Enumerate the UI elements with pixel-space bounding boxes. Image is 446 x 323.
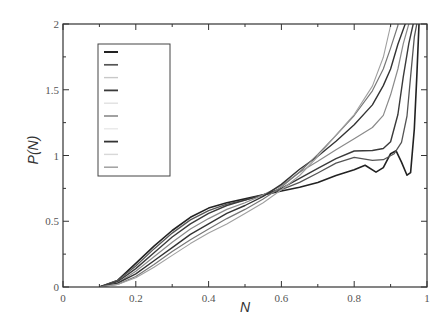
y-tick-label: 1 <box>54 150 60 162</box>
y-tick-label: 2 <box>54 18 60 30</box>
y-tick-label: 0 <box>54 281 60 293</box>
legend-box <box>98 44 170 176</box>
y-tick-label: 1.5 <box>45 84 59 96</box>
x-tick-label: 0.4 <box>202 292 216 304</box>
x-axis-title: N <box>240 299 251 315</box>
x-tick-label: 0.8 <box>347 292 361 304</box>
x-tick-label: 0.6 <box>275 292 289 304</box>
y-tick-label: 0.5 <box>45 215 59 227</box>
x-tick-label: 0.2 <box>129 292 143 304</box>
y-axis-title: P(N) <box>25 136 41 165</box>
legend <box>98 44 170 176</box>
x-tick-label: 0 <box>60 292 66 304</box>
x-tick-label: 1 <box>424 292 430 304</box>
line-chart: 00.20.40.60.8100.511.52 N P(N) <box>0 0 446 323</box>
